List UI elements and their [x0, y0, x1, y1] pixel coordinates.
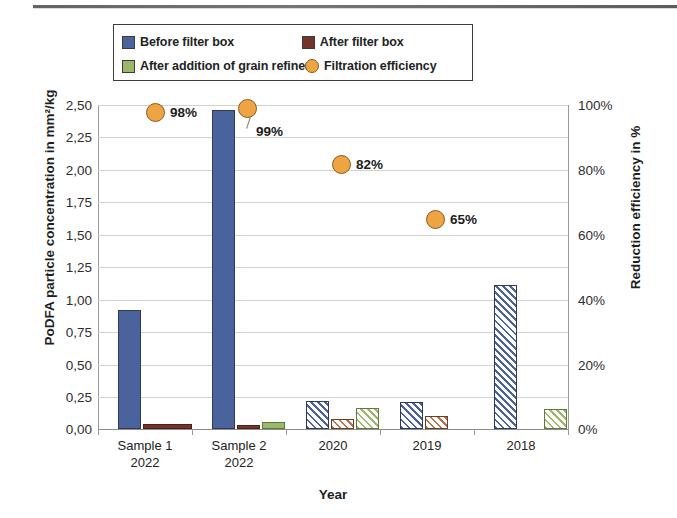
- x-category-line1: Sample 1: [118, 438, 173, 453]
- efficiency-label-2020: 82%: [356, 157, 383, 172]
- legend-label-after-filter-box: After filter box: [320, 35, 404, 49]
- gridline-2-25: [98, 137, 568, 138]
- legend-row-2: After addition of grain refiner Filtrati…: [122, 54, 464, 78]
- y-axis-left-title: PoDFA particle concentration in mm²/kg: [42, 73, 57, 363]
- legend-swatch-green-icon: [122, 60, 135, 73]
- x-axis-title: Year: [98, 487, 568, 502]
- gridline-1-50: [98, 235, 568, 236]
- bar-before-filter-box-sample1-2022: [118, 310, 141, 429]
- chart-legend: Before filter box After filter box After…: [113, 24, 473, 81]
- efficiency-label-sample2-2022: 99%: [256, 124, 283, 139]
- plot-area: 98% 99% 82% 65%: [98, 105, 568, 429]
- bar-after-grain-refiner-2018: [544, 409, 567, 429]
- legend-swatch-red-icon: [302, 36, 315, 49]
- y-tick-right-0: 0%: [578, 422, 624, 437]
- bar-before-filter-box-2020: [306, 401, 329, 429]
- x-tick-2: [286, 429, 287, 435]
- legend-label-before-filter-box: Before filter box: [140, 35, 234, 49]
- legend-item-after-filter-box: After filter box: [302, 35, 464, 49]
- efficiency-marker-2019: [426, 210, 445, 229]
- y-tick-left-1-50: 1,50: [44, 228, 92, 243]
- legend-item-filtration-efficiency: Filtration efficiency: [305, 59, 464, 73]
- legend-item-after-grain-refiner: After addition of grain refiner: [122, 59, 305, 73]
- bar-after-filter-box-sample1-2022: [143, 424, 192, 429]
- bar-before-filter-box-2019: [400, 402, 423, 429]
- bar-after-filter-box-sample2-2022: [237, 425, 260, 429]
- x-tick-4: [474, 429, 475, 435]
- y-tick-left-0-25: 0,25: [44, 390, 92, 405]
- bar-before-filter-box-2018: [494, 285, 517, 429]
- legend-swatch-blue-icon: [122, 36, 135, 49]
- gridline-1-75: [98, 202, 568, 203]
- y-tick-left-1-25: 1,25: [44, 260, 92, 275]
- efficiency-marker-sample1-2022: [146, 103, 165, 122]
- y-tick-left-2-50: 2,50: [44, 98, 92, 113]
- efficiency-marker-2020: [332, 155, 351, 174]
- legend-label-after-grain-refiner: After addition of grain refiner: [140, 59, 310, 73]
- x-category-line2: 2022: [179, 454, 299, 471]
- chart-figure: Before filter box After filter box After…: [0, 0, 677, 518]
- y-tick-left-2-25: 2,25: [44, 130, 92, 145]
- efficiency-label-sample1-2022: 98%: [170, 105, 197, 120]
- y-tick-right-100: 100%: [578, 98, 624, 113]
- x-tick-1: [192, 429, 193, 435]
- bar-after-filter-box-2019: [425, 416, 448, 429]
- bar-after-filter-box-2020: [331, 419, 354, 429]
- y-tick-left-1-00: 1,00: [44, 293, 92, 308]
- legend-row-1: Before filter box After filter box: [122, 30, 464, 54]
- bar-after-grain-refiner-sample2-2022: [262, 422, 285, 429]
- x-category-line1: Sample 2: [212, 438, 267, 453]
- y-tick-right-20: 20%: [578, 358, 624, 373]
- y-tick-right-80: 80%: [578, 163, 624, 178]
- bar-before-filter-box-sample2-2022: [212, 110, 235, 429]
- y-axis-right-line: [568, 105, 569, 430]
- x-tick-3: [380, 429, 381, 435]
- y-tick-left-2-00: 2,00: [44, 163, 92, 178]
- y-tick-left-0-75: 0,75: [44, 325, 92, 340]
- x-category-line1: 2020: [319, 438, 348, 453]
- x-axis-line: [98, 429, 569, 430]
- y-tick-left-0-50: 0,50: [44, 358, 92, 373]
- bar-after-grain-refiner-2020: [356, 408, 379, 429]
- x-tick-0: [98, 429, 99, 435]
- gridline-1-25: [98, 267, 568, 268]
- x-category-line1: 2019: [413, 438, 442, 453]
- x-tick-5: [568, 429, 569, 435]
- efficiency-label-2019: 65%: [450, 212, 477, 227]
- y-axis-right-title: Reduction efficiency in %: [628, 93, 643, 323]
- y-tick-left-1-75: 1,75: [44, 195, 92, 210]
- efficiency-leader-line-sample2-2022: [246, 117, 251, 129]
- legend-label-filtration-efficiency: Filtration efficiency: [324, 59, 437, 73]
- legend-dot-orange-icon: [305, 59, 319, 73]
- gridline-2-50: [98, 105, 568, 106]
- x-category-line1: 2018: [507, 438, 536, 453]
- y-tick-right-60: 60%: [578, 228, 624, 243]
- y-tick-left-0-00: 0,00: [44, 422, 92, 437]
- efficiency-marker-sample2-2022: [238, 99, 257, 118]
- legend-item-before-filter-box: Before filter box: [122, 35, 302, 49]
- x-category-2018: 2018: [461, 437, 581, 454]
- y-tick-right-40: 40%: [578, 293, 624, 308]
